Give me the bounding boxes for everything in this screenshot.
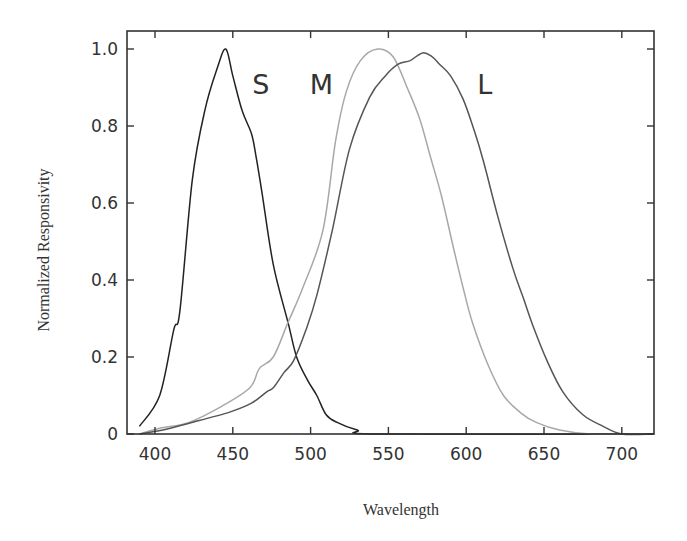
x-tick-label: 600 [450,444,482,464]
x-axis-title: Wavelength [363,501,439,519]
x-tick-label: 550 [372,444,404,464]
x-tick-label: 450 [217,444,249,464]
y-tick-labels: 00.20.40.60.81.0 [91,39,118,444]
x-tick-label: 400 [139,444,171,464]
curve-m [139,49,653,434]
curves-group [139,49,653,435]
y-tick-label: 0.6 [91,193,118,213]
y-tick-label: 0.4 [91,270,118,290]
curve-l [139,53,653,435]
x-tick-label: 500 [294,444,326,464]
y-tick-label: 0 [107,424,118,444]
x-tick-labels: 400450500550600650700 [139,444,638,464]
y-axis-title: Normalized Responsivity [35,168,53,331]
spectral-responsivity-chart: 400450500550600650700 00.20.40.60.81.0 S… [0,0,687,541]
curve-label-l: L [477,69,492,100]
y-tick-label: 1.0 [91,39,118,59]
curve-s [139,49,653,434]
plot-frame [127,31,654,434]
x-tick-label: 700 [606,444,638,464]
x-tick-label: 650 [528,444,560,464]
curve-label-m: M [310,69,333,100]
curve-label-s: S [252,69,269,100]
y-tick-label: 0.2 [91,347,118,367]
y-tick-label: 0.8 [91,116,118,136]
axis-ticks [127,31,654,434]
